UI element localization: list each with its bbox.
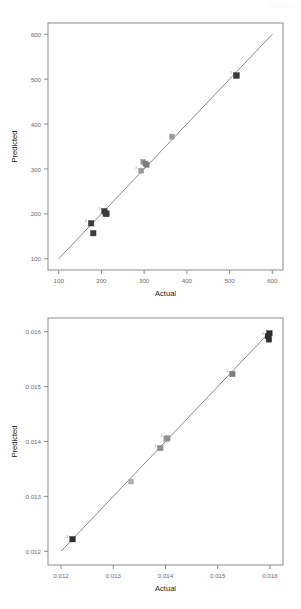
- scatter-point-marker: [266, 337, 272, 343]
- x-axis-tick-label: 300: [139, 277, 150, 284]
- scatter-point-label: 5: [226, 369, 228, 373]
- scatter-point-label: 3: [154, 444, 156, 448]
- x-axis-tick-label: 100: [54, 277, 65, 284]
- y-axis-tick-label: 0.013: [26, 493, 42, 500]
- x-axis-tick-label: 400: [182, 277, 193, 284]
- y-axis-tick-label: 0.015: [26, 383, 42, 390]
- x-axis-tick-label: 600: [267, 277, 278, 284]
- scatter-point-marker: [230, 371, 236, 377]
- scatter-point-marker: [267, 331, 273, 337]
- scatter-point-marker: [139, 168, 144, 173]
- scatter-point-marker: [70, 536, 76, 542]
- scatter-point-label: 5: [66, 535, 68, 539]
- scatter-point-marker: [233, 73, 239, 79]
- x-axis-title: Actual: [155, 289, 176, 298]
- actual-vs-predicted-scatter-top: 100200300400500600100200300400500600Actu…: [0, 0, 301, 300]
- scatter-point-label: 3: [98, 207, 100, 211]
- y-axis-tick-label: 0.016: [26, 328, 42, 335]
- scatter-point-marker: [129, 479, 134, 484]
- scatter-point-marker: [169, 134, 174, 139]
- actual-vs-predicted-scatter-bottom: 0.0120.0130.0140.0150.0160.0120.0130.014…: [0, 300, 301, 609]
- scatter-point-label: 5: [230, 71, 232, 75]
- scatter-point-marker: [144, 162, 149, 167]
- scatter-point-marker: [91, 230, 97, 236]
- scatter-point-marker: [88, 221, 94, 227]
- x-axis-tick-label: 0.016: [262, 572, 278, 579]
- chart-bottom-container: 0.0120.0130.0140.0150.0160.0120.0130.014…: [0, 300, 301, 609]
- scatter-point-label: 4: [85, 219, 87, 223]
- scatter-point-label: 4: [160, 434, 162, 438]
- x-axis-tick-label: 0.014: [158, 572, 174, 579]
- y-axis-tick-label: 600: [31, 31, 42, 38]
- x-axis-tick-label: 0.015: [210, 572, 226, 579]
- y-axis-tick-label: 500: [31, 76, 42, 83]
- chart-top-container: 100200300400500600100200300400500600Actu…: [0, 0, 301, 300]
- x-axis-tick-label: 200: [96, 277, 107, 284]
- y-axis-tick-label: 300: [31, 166, 42, 173]
- y-axis-tick-label: 0.012: [26, 548, 42, 555]
- scatter-point-label: 4: [135, 166, 137, 170]
- y-axis-title: Predicted: [10, 425, 19, 457]
- scatter-point-marker: [165, 436, 170, 441]
- x-axis-title: Actual: [155, 584, 176, 593]
- y-axis-tick-label: 0.014: [26, 438, 42, 445]
- scatter-point-label: 4: [262, 332, 264, 336]
- x-axis-tick-label: 0.012: [53, 572, 69, 579]
- x-axis-tick-label: 500: [224, 277, 235, 284]
- figure-page: 100200300400500600100200300400500600Actu…: [0, 0, 301, 609]
- x-axis-tick-label: 0.013: [106, 572, 122, 579]
- y-axis-tick-label: 400: [31, 121, 42, 128]
- y-axis-title: Predicted: [10, 130, 19, 162]
- scatter-point-marker: [158, 445, 164, 451]
- y-axis-tick-label: 200: [31, 210, 42, 217]
- scatter-point-marker: [104, 211, 110, 217]
- scatter-series: 4345: [85, 71, 239, 236]
- y-axis-tick-label: 100: [31, 255, 42, 262]
